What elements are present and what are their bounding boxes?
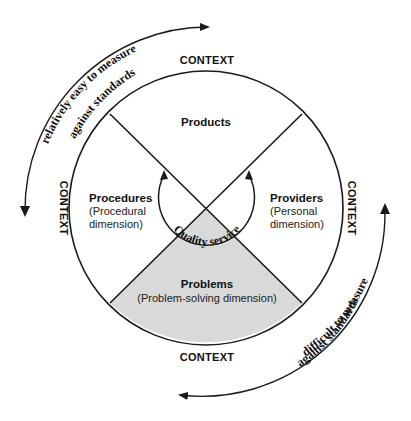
quality-service-diagram: CONTEXT CONTEXT CONTEXT CONTEXT Products… — [0, 0, 411, 421]
context-label-bottom: CONTEXT — [180, 351, 235, 363]
providers-subtitle-1: (Personal — [270, 205, 317, 217]
products-label: Products — [181, 116, 231, 128]
difficult-to-measure-text-2: against standards — [294, 295, 362, 370]
providers-label: Providers — [270, 192, 323, 204]
context-label-left: CONTEXT — [58, 181, 70, 236]
context-label-top: CONTEXT — [180, 54, 235, 66]
arrowhead-down-icon — [20, 206, 30, 217]
procedures-label: Procedures — [89, 192, 152, 204]
arrowhead-right-inner-icon — [245, 170, 253, 180]
procedures-subtitle-1: (Procedural — [89, 205, 146, 217]
arrowhead-up-icon — [380, 203, 390, 214]
context-label-right: CONTEXT — [346, 181, 358, 236]
procedures-subtitle-2: dimension) — [89, 218, 143, 230]
problems-label: Problems — [181, 278, 233, 290]
problems-subtitle: (Problem-solving dimension) — [137, 292, 276, 304]
arrowhead-left-inner-icon — [160, 170, 168, 180]
easy-to-measure-text-1: relatively easy to measure — [38, 41, 139, 146]
providers-subtitle-2: dimension) — [270, 218, 324, 230]
